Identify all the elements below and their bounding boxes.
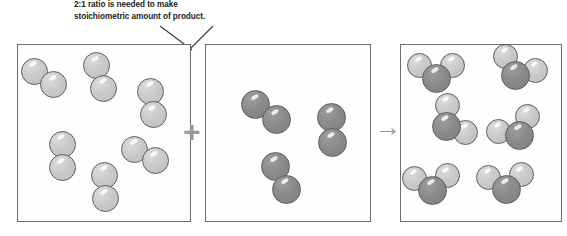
hydrogen-atom bbox=[140, 101, 167, 128]
hydrogen-atom bbox=[49, 154, 76, 181]
oxygen-atom bbox=[492, 175, 521, 204]
oxygen-atom bbox=[262, 105, 291, 134]
reaction-arrow-icon: → bbox=[374, 114, 401, 141]
stoichiometry-diagram: limiting reagent amount of product 2:1 r… bbox=[0, 0, 567, 236]
hydrogen-atom bbox=[90, 75, 117, 102]
hydrogen-atom bbox=[40, 71, 67, 98]
oxygen-atom bbox=[505, 121, 534, 150]
ratio-caption: 2:1 ratio is needed to make stoichiometr… bbox=[74, 0, 244, 22]
oxygen-atom bbox=[422, 64, 451, 93]
oxygen-atom bbox=[501, 61, 530, 90]
oxygen-atom bbox=[418, 176, 447, 205]
plus-icon: + bbox=[183, 117, 201, 147]
oxygen-atom bbox=[432, 112, 461, 141]
hydrogen-atom bbox=[142, 147, 169, 174]
hydrogen-atom bbox=[92, 185, 119, 212]
oxygen-atom bbox=[272, 175, 301, 204]
